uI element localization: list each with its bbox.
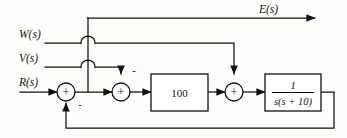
label-v-of-s: V(s) xyxy=(19,52,38,65)
sum2-plus-sign: + xyxy=(118,85,125,99)
block-diagram-canvas: + - + - + 100 1 s(s + 10) E(s) W(s) V(s)… xyxy=(0,0,347,138)
summing-junction-3[interactable]: + xyxy=(225,83,243,101)
plant-numerator: 1 xyxy=(290,80,295,91)
block-diagram-svg: + - + - + 100 1 s(s + 10) E(s) W(s) V(s)… xyxy=(0,0,347,138)
sum3-plus-sign: + xyxy=(231,85,238,99)
label-w-of-s: W(s) xyxy=(19,28,41,41)
w-wire-to-sum3 xyxy=(95,43,234,74)
sum1-plus-sign: + xyxy=(63,85,70,99)
sum2-minus-sign: - xyxy=(132,64,136,76)
label-e-of-s: E(s) xyxy=(258,3,278,16)
v-input-path xyxy=(45,60,121,74)
plant-block[interactable]: 1 s(s + 10) xyxy=(265,74,321,111)
gain-block[interactable]: 100 xyxy=(151,74,208,111)
label-r-of-s: R(s) xyxy=(18,76,38,89)
summing-junction-2[interactable]: + - xyxy=(112,64,136,101)
summing-junction-1[interactable]: + - xyxy=(57,83,82,110)
sum1-minus-sign: - xyxy=(78,98,82,110)
plant-denominator: s(s + 10) xyxy=(274,96,313,108)
gain-block-label: 100 xyxy=(171,87,188,99)
w-input-path xyxy=(45,36,234,74)
v-wire-to-sum2 xyxy=(95,67,121,74)
